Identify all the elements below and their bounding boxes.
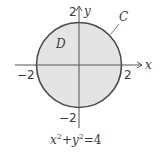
tick-label-x-pos: 2: [124, 68, 132, 82]
tick-label-y-neg: −2: [59, 111, 77, 125]
region-d-label: D: [55, 37, 66, 51]
x-axis-label: x: [145, 58, 152, 72]
curve-c-leader-line: [111, 24, 119, 34]
equation-equals-four: =4: [84, 133, 102, 147]
tick-label-x-neg: −2: [17, 68, 35, 82]
y-axis-label: y: [83, 4, 91, 18]
equation-plus: +: [62, 133, 72, 147]
curve-c-label: C: [119, 10, 128, 24]
disk-diagram: C D x y −2 2 2 −2 x2+y2=4: [0, 0, 159, 154]
tick-label-y-pos: 2: [69, 5, 77, 19]
equation-caption: x2+y2=4: [50, 132, 102, 147]
